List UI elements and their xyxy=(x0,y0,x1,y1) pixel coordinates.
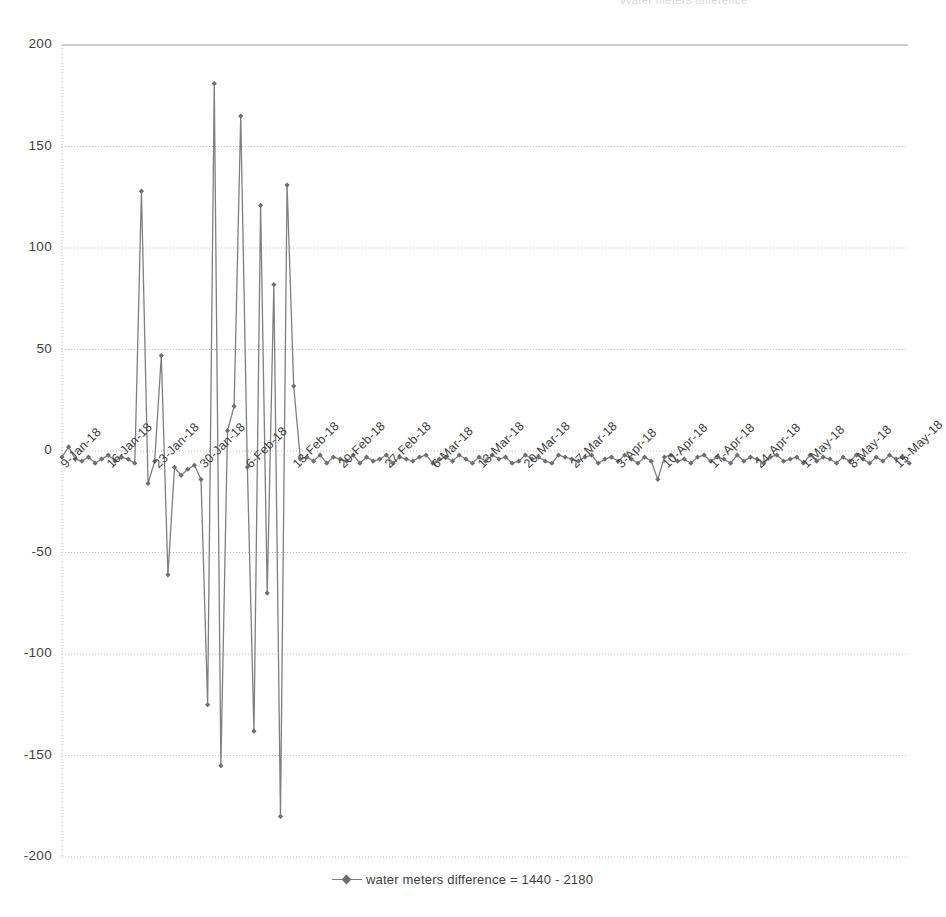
y-tick-label: 200 xyxy=(4,36,52,51)
y-tick-label: -150 xyxy=(4,747,52,762)
y-tick-label: -50 xyxy=(4,544,52,559)
legend-entry: water meters difference = 1440 - 2180 xyxy=(332,872,593,887)
legend-label: water meters difference = 1440 - 2180 xyxy=(366,872,593,887)
legend-diamond-icon xyxy=(341,875,351,885)
y-tick-label: -100 xyxy=(4,645,52,660)
legend: water meters difference = 1440 - 2180 xyxy=(0,872,925,889)
line-diamond-marker-icon xyxy=(332,874,362,886)
y-tick-label: 150 xyxy=(4,138,52,153)
y-tick-label: 100 xyxy=(4,239,52,254)
y-tick-label: 0 xyxy=(4,442,52,457)
y-tick-label: -200 xyxy=(4,848,52,863)
y-tick-label: 50 xyxy=(4,341,52,356)
